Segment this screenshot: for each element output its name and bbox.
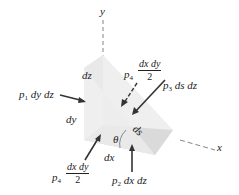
- p1-label: p1 dy dz: [19, 89, 54, 102]
- p2-label: p2 dx dz: [112, 175, 147, 188]
- p4-bottom-fraction: dx dy 2: [66, 162, 89, 185]
- p4-top-fraction: dx dy 2: [138, 59, 161, 82]
- theta-label: θ: [113, 134, 118, 145]
- x-axis: [180, 140, 215, 150]
- x-axis-label: x: [217, 142, 222, 153]
- y-axis-label: y: [100, 6, 105, 17]
- dz-label: dz: [82, 70, 92, 81]
- dy-label: dy: [66, 114, 76, 125]
- dx-label: dx: [104, 152, 114, 163]
- p4-bottom-symbol: p4: [52, 172, 61, 185]
- p4-top-symbol: p4: [124, 69, 133, 82]
- p3-label: p3 ds dz: [163, 80, 197, 93]
